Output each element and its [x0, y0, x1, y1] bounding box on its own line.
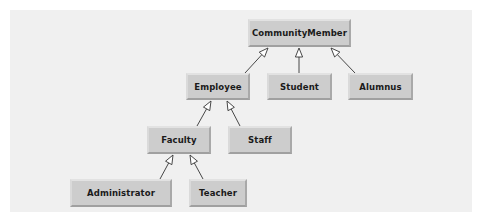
inheritance-line [245, 55, 262, 73]
hollow-arrowhead-icon [227, 101, 234, 111]
hollow-arrowhead-icon [203, 101, 211, 111]
class-administrator: Administrator [70, 179, 172, 207]
inheritance-line [231, 109, 240, 126]
class-faculty: Faculty [147, 126, 211, 154]
class-label: CommunityMember [252, 28, 347, 38]
class-staff: Staff [228, 126, 292, 154]
class-label: Staff [248, 135, 272, 145]
class-label: Administrator [87, 188, 155, 198]
inheritance-line [197, 109, 207, 126]
hollow-arrowhead-icon [166, 155, 173, 165]
inheritance-line [194, 163, 203, 179]
class-alumnus: Alumnus [348, 73, 413, 100]
class-employee: Employee [186, 73, 250, 100]
inheritance-line [337, 54, 355, 73]
class-label: Employee [194, 82, 241, 92]
class-label: Alumnus [359, 82, 401, 92]
class-label: Teacher [199, 188, 237, 198]
hollow-arrowhead-icon [295, 48, 302, 57]
hollow-arrowhead-icon [190, 155, 197, 165]
class-label: Student [280, 82, 319, 92]
class-label: Faculty [161, 135, 196, 145]
class-communitymember: CommunityMember [248, 19, 351, 47]
class-teacher: Teacher [189, 179, 247, 207]
class-student: Student [267, 73, 332, 100]
inheritance-line [160, 163, 169, 179]
